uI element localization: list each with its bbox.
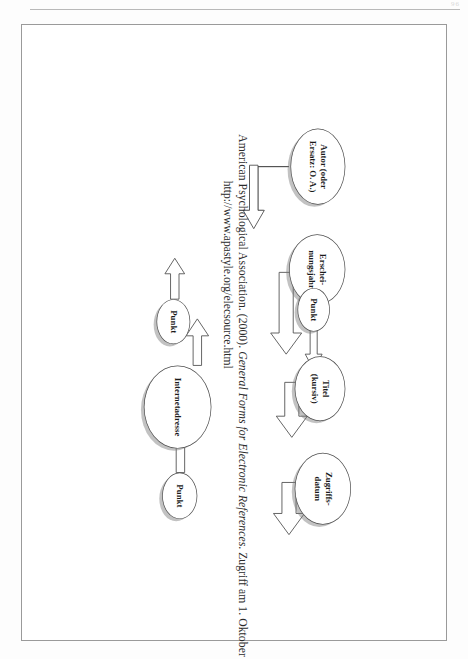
citation-text-line-1: American Psychological Association. (200…: [234, 134, 251, 533]
node-titel-label-2: (kursiv): [309, 373, 320, 403]
node-zugriffsdatum-label-2: datum: [312, 471, 323, 505]
citation-title-italic: General Forms for Electronic References: [236, 351, 249, 546]
node-zugriffsdatum: Zugriffs- datum: [295, 452, 351, 524]
node-punkt-third: Punkt: [162, 472, 197, 519]
scanned-page: 96: [0, 0, 468, 659]
header-rule: [30, 9, 460, 10]
node-erscheinungsjahr-label-1: Erschei-: [317, 250, 328, 289]
citation-access-date: . Zugriff am 1. Oktober 2001 unter: [236, 546, 249, 659]
node-punkt-third-label: Punkt: [174, 484, 185, 507]
node-autor-label-2: Ersatz: O. A.): [307, 140, 318, 192]
figure-frame: American Psychological Association. (200…: [21, 24, 447, 641]
node-autor-label-1: Autor (oder: [318, 140, 329, 192]
arrow-punkt-2: [165, 258, 185, 299]
citation-author-year: American Psychological Association. (200…: [236, 134, 249, 351]
citation-text-line-2: http://www.apastyle.org/elecsource.html: [221, 180, 235, 368]
rotated-diagram-wrapper: American Psychological Association. (200…: [86, 121, 382, 544]
node-zugriffsdatum-label-1: Zugriffs-: [323, 471, 334, 505]
node-autor: Autor (oder Ersatz: O. A.): [290, 128, 345, 204]
node-erscheinungsjahr-label-2: nungsjahr: [307, 250, 318, 289]
node-punkt-second: Punkt: [156, 299, 190, 344]
node-punkt-first: Punkt: [297, 287, 329, 331]
node-titel: Titel (kursiv): [295, 356, 346, 421]
node-titel-label-1: Titel: [320, 373, 331, 403]
node-internetadresse-label: Internetadresse: [172, 377, 183, 436]
citation-structure-diagram: American Psychological Association. (200…: [86, 121, 382, 544]
node-punkt-second-label: Punkt: [168, 310, 179, 333]
node-punkt-first-label: Punkt: [308, 298, 319, 321]
node-internetadresse: Internetadresse: [144, 365, 212, 448]
page-number: 96: [451, 0, 460, 8]
